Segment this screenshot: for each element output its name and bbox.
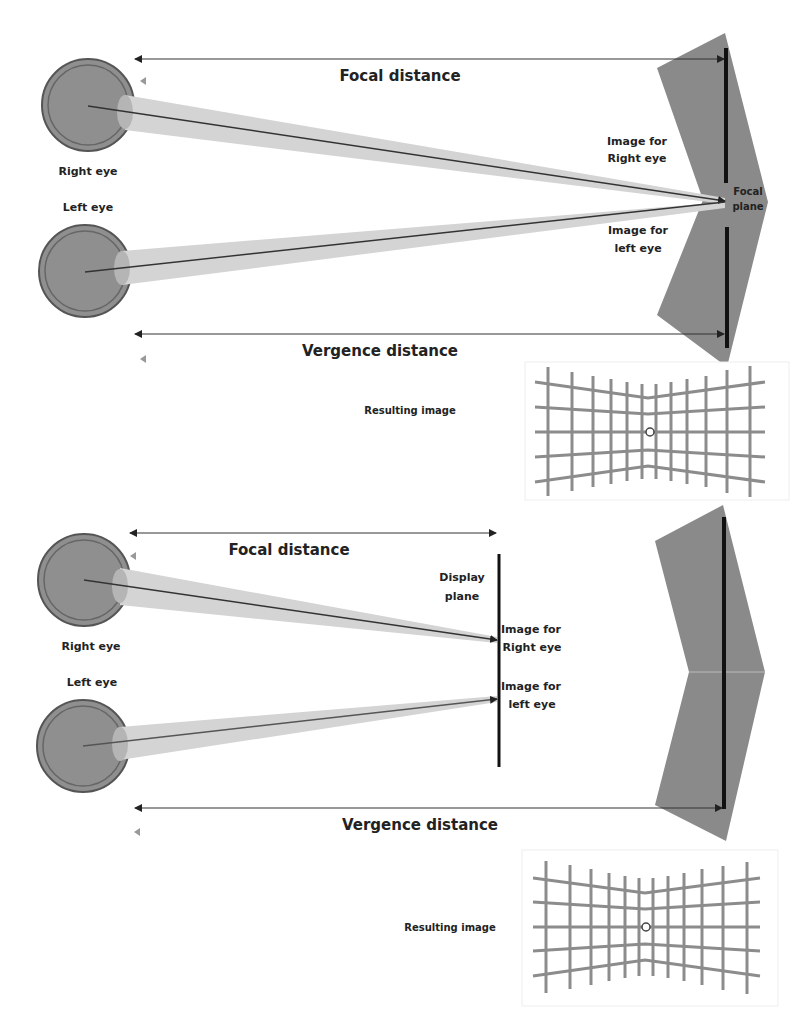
resulting-image-grid — [522, 850, 778, 1006]
vergence-distance-label: Vergence distance — [342, 816, 498, 834]
focal-plane-label-2: plane — [732, 201, 763, 212]
bottom-panel: Focal distance Vergence distance Right e… — [37, 505, 778, 1006]
image-left-label-1: Image for — [608, 224, 668, 237]
display-plane-label-2: plane — [445, 590, 479, 603]
image-left-label-2: left eye — [614, 242, 661, 255]
right-eye-label: Right eye — [61, 640, 120, 653]
image-right-label-1: Image for — [501, 623, 561, 636]
image-right-label-1: Image for — [607, 135, 667, 148]
display-plane-label-1: Display — [439, 571, 484, 584]
diagram-canvas: Focal distance Vergence distance Right e… — [0, 0, 799, 1033]
image-left-label-2: left eye — [508, 698, 555, 711]
image-right-label-2: Right eye — [607, 152, 666, 165]
resulting-image-grid — [525, 362, 789, 500]
image-right-label-2: Right eye — [502, 641, 561, 654]
left-eye-label: Left eye — [63, 201, 113, 214]
image-left-label-1: Image for — [501, 680, 561, 693]
right-eye-label: Right eye — [58, 165, 117, 178]
focal-distance-label: Focal distance — [228, 541, 349, 559]
left-eye-label: Left eye — [67, 676, 117, 689]
focal-plane-label-1: Focal — [733, 186, 762, 197]
top-panel: Focal distance Vergence distance Right e… — [39, 33, 789, 500]
vergence-plane-chevron — [655, 505, 765, 841]
resulting-image-label: Resulting image — [404, 922, 496, 933]
vergence-distance-label: Vergence distance — [302, 342, 458, 360]
focal-distance-label: Focal distance — [339, 67, 460, 85]
resulting-image-label: Resulting image — [364, 405, 456, 416]
